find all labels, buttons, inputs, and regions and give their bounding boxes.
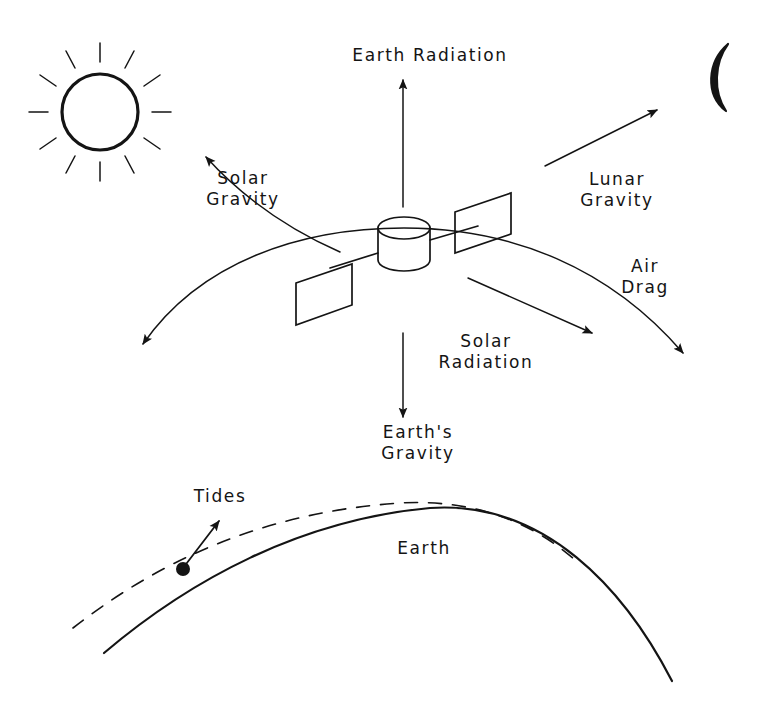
lunar-gravity-arrow [545,110,657,166]
tidal-bulge-dashed-curve [73,503,575,628]
tide-point-marker [176,521,219,576]
diagram-canvas: Earth Radiation Solar Gravity Lunar Grav… [0,0,779,714]
diagram-artwork [0,0,779,714]
label-solar-radiation: Solar Radiation [439,331,534,373]
orbit-arc [143,228,683,353]
label-tides: Tides [194,486,247,507]
label-lunar-gravity: Lunar Gravity [580,169,653,211]
label-solar-gravity: Solar Gravity [206,168,279,210]
label-air-drag: Air Drag [621,256,669,298]
earth-surface-curve [104,508,672,681]
label-earth: Earth [397,538,451,559]
label-earths-gravity: Earth's Gravity [381,422,454,464]
crescent-moon-icon [711,44,728,111]
label-earth-radiation: Earth Radiation [352,45,507,66]
sun-icon [29,43,171,181]
solar-radiation-arrow [468,278,592,333]
satellite-icon [296,193,511,325]
